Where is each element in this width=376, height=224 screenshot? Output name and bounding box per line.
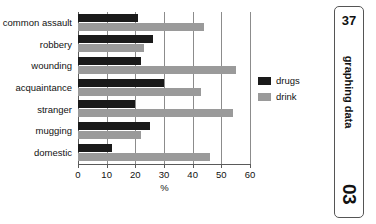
x-tick-60: [250, 165, 251, 168]
x-tick-label-60: 60: [238, 169, 262, 180]
category-label-common-assault: common assault: [0, 18, 72, 28]
side-tab-page-number-top: 37: [335, 13, 363, 28]
bar-group-mugging: [78, 121, 250, 143]
bar-drink-robbery: [78, 44, 144, 52]
side-tab: 37 graphing data 03: [334, 6, 364, 218]
page-root: common assaultrobberywoundingacquaintanc…: [0, 0, 376, 224]
legend-swatch-drugs: [258, 77, 271, 85]
bar-group-wounding: [78, 55, 250, 77]
x-tick-20: [135, 165, 136, 168]
bar-group-robbery: [78, 34, 250, 56]
gridline-60: [250, 12, 251, 164]
legend-label-drugs: drugs: [276, 75, 300, 86]
x-axis-title: %: [78, 182, 251, 193]
legend-item-drugs: drugs: [258, 74, 316, 88]
bar-drink-domestic: [78, 153, 210, 161]
plot-area: [78, 12, 250, 164]
bar-groups: [78, 12, 250, 164]
bar-group-stranger: [78, 99, 250, 121]
bar-drugs-common-assault: [78, 14, 138, 22]
x-tick-0: [78, 165, 79, 168]
x-tick-50: [221, 165, 222, 168]
bar-chart-figure: common assaultrobberywoundingacquaintanc…: [0, 0, 316, 224]
x-tick-label-20: 20: [123, 169, 147, 180]
x-tick-label-10: 10: [95, 169, 119, 180]
category-axis-labels: common assaultrobberywoundingacquaintanc…: [0, 12, 74, 164]
bar-group-domestic: [78, 142, 250, 164]
x-tick-30: [164, 165, 165, 168]
legend-item-drink: drink: [258, 90, 316, 104]
bar-drugs-stranger: [78, 100, 135, 108]
side-tab-chapter-number: 03: [335, 179, 363, 209]
bar-drink-acquaintance: [78, 88, 201, 96]
bar-drink-stranger: [78, 109, 233, 117]
bar-drink-wounding: [78, 66, 236, 74]
bar-group-acquaintance: [78, 77, 250, 99]
side-tab-title: graphing data: [335, 37, 363, 147]
category-label-stranger: stranger: [0, 105, 72, 115]
x-axis-tick-labels: 0102030405060: [78, 169, 251, 181]
x-tick-label-50: 50: [209, 169, 233, 180]
category-label-wounding: wounding: [0, 61, 72, 71]
bar-drugs-domestic: [78, 144, 112, 152]
side-tab-chapter-number-text: 03: [338, 184, 360, 204]
bar-drugs-robbery: [78, 35, 153, 43]
x-tick-label-0: 0: [66, 169, 90, 180]
x-tick-40: [193, 165, 194, 168]
legend-label-drink: drink: [276, 91, 297, 102]
category-label-domestic: domestic: [0, 148, 72, 158]
category-label-acquaintance: acquaintance: [0, 83, 72, 93]
bar-drugs-acquaintance: [78, 79, 164, 87]
bar-group-common-assault: [78, 12, 250, 34]
legend-swatch-drink: [258, 93, 271, 101]
side-tab-title-text: graphing data: [343, 56, 355, 129]
category-label-mugging: mugging: [0, 126, 72, 136]
chart-legend: drugsdrink: [258, 74, 316, 106]
bar-drink-mugging: [78, 131, 141, 139]
category-label-robbery: robbery: [0, 40, 72, 50]
bar-drugs-mugging: [78, 122, 150, 130]
bar-drugs-wounding: [78, 57, 141, 65]
bar-drink-common-assault: [78, 23, 204, 31]
x-tick-10: [107, 165, 108, 168]
x-tick-label-30: 30: [152, 169, 176, 180]
x-tick-label-40: 40: [181, 169, 205, 180]
